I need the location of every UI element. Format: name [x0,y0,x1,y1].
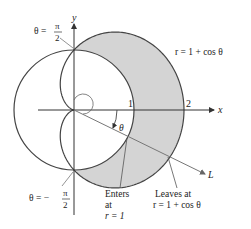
leaves-line1: Leaves at [155,189,191,199]
bottom-angle-denominator: 2 [63,200,68,210]
top-angle-prefix: θ = [34,26,46,36]
bottom-angle-prefix: θ = − [29,193,49,203]
leaves-line2: r = 1 + cos θ [153,200,201,210]
enters-line3: r = 1 [105,211,125,221]
polar-area-diagram: y x 1 2 r = 1 + cos θ θ L θ = π 2 θ = − … [0,0,251,229]
y-axis-label: y [71,12,77,23]
tick-2-label: 2 [186,98,191,109]
leaves-leader [168,157,177,188]
bottom-angle-numerator: π [63,188,68,198]
enters-line1: Enters [105,189,130,199]
enters-line2: at [105,200,112,210]
theta-arc [113,110,117,128]
top-angle-numerator: π [55,21,60,31]
cardioid-equation-label: r = 1 + cos θ [175,47,223,57]
top-angle-denominator: 2 [55,33,60,43]
x-axis-label: x [217,104,223,115]
bottom-angle-leader [62,172,73,186]
tick-1-label: 1 [128,98,133,109]
theta-label: θ [119,123,124,133]
top-angle-leader [60,38,73,48]
line-L-label: L [207,169,214,180]
